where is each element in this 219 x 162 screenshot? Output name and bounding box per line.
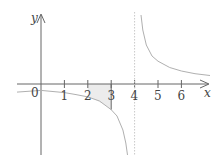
x-tick-label-5: 5 [154, 89, 162, 103]
x-tick-label-1: 1 [61, 89, 69, 103]
curve-right-branch [141, 15, 210, 76]
x-axis-label: x [204, 86, 211, 100]
x-tick-label-3: 3 [108, 89, 116, 103]
x-tick-label-6: 6 [178, 89, 186, 103]
function-graph: 0 1 2 3 4 5 6 x y [0, 0, 219, 162]
origin-label: 0 [31, 86, 39, 100]
y-axis-label: y [30, 11, 38, 25]
x-tick-label-4: 4 [131, 89, 139, 103]
x-tick-label-2: 2 [84, 89, 92, 103]
